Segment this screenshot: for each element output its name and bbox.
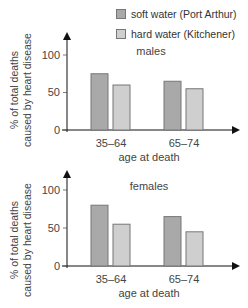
bar-females-65-74-hard <box>186 232 203 266</box>
tick-0: 0 <box>54 124 60 136</box>
bar-males-35-64-soft <box>91 74 108 130</box>
y-axis-label: % of total deaths <box>8 201 20 279</box>
panel-title-males: males <box>136 45 166 57</box>
bar-males-65-74-hard <box>186 89 203 130</box>
panel-title-females: females <box>130 180 169 192</box>
bar-males-65-74-soft <box>164 81 181 130</box>
tick-100: 100 <box>42 184 60 196</box>
x-axis-label: age at death <box>118 151 179 163</box>
tick-50: 50 <box>48 222 60 234</box>
females-chart: % of total deaths caused by heart diseas… <box>8 174 236 299</box>
bar-females-35-64-soft <box>91 205 108 266</box>
y-axis-label: % of total deaths <box>8 51 20 129</box>
bar-males-35-64-hard <box>113 85 130 130</box>
category-label: 65–74 <box>169 137 200 149</box>
bar-females-35-64-hard <box>113 224 130 266</box>
tick-50: 50 <box>48 86 60 98</box>
category-label: 35–64 <box>96 137 127 149</box>
y-axis-label-2: caused by heart disease <box>21 33 33 147</box>
y-axis-label-2: caused by heart disease <box>21 183 33 297</box>
category-label: 65–74 <box>169 273 200 285</box>
charts: % of total deaths caused by heart diseas… <box>0 0 248 308</box>
tick-0: 0 <box>54 260 60 272</box>
males-chart: % of total deaths caused by heart diseas… <box>8 33 236 163</box>
category-label: 35–64 <box>96 273 127 285</box>
bar-females-65-74-soft <box>164 217 181 266</box>
x-axis-label: age at death <box>118 287 179 299</box>
tick-100: 100 <box>42 49 60 61</box>
